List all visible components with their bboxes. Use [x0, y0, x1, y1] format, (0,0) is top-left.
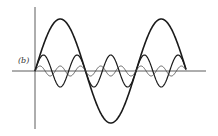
- harmonics-diagram: [0, 0, 218, 136]
- figure-label: (b): [18, 56, 29, 65]
